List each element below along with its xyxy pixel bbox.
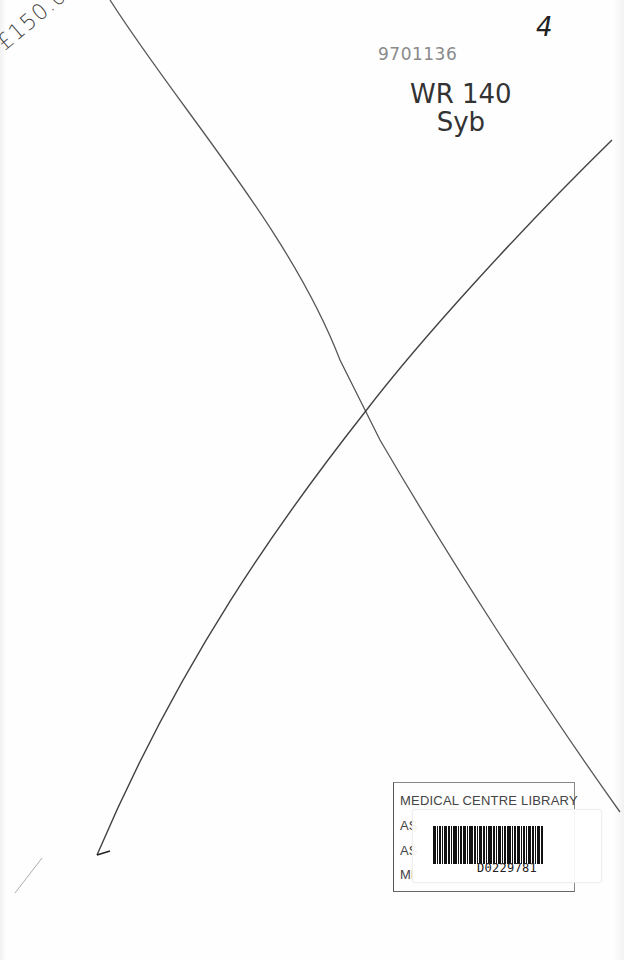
page: £150.00 9701136 WR 140 Syb 4 MEDICAL CEN… [0,0,624,960]
stamp-title: MEDICAL CENTRE LIBRARY [400,793,578,808]
barcode-label: D0229781 [412,809,602,883]
barcode-icon [433,826,585,864]
handwritten-accession-number: 9701136 [378,44,457,64]
handwritten-classmark: WR 140 Syb [410,80,512,136]
cross-line-1 [110,0,620,812]
classmark-line-2: Syb [410,108,512,136]
barcode-number: D0229781 [413,861,601,875]
classmark-line-1: WR 140 [410,80,512,108]
cross-line-2 [97,140,612,855]
stray-pencil-mark [15,858,42,893]
handwritten-page-number: 4 [536,12,553,42]
